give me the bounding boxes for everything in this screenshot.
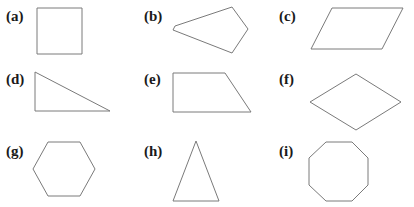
shapes-canvas: [0, 0, 414, 207]
isosceles-triangle-shape: [173, 141, 219, 201]
rhombus-shape: [310, 74, 401, 130]
hexagon-shape: [33, 142, 95, 196]
right-triangle-shape: [35, 72, 110, 111]
trapezoid-shape: [173, 73, 251, 112]
square-shape: [37, 8, 82, 54]
octagon-shape: [309, 142, 368, 201]
pentagon-shape: [173, 7, 248, 53]
parallelogram-shape: [311, 8, 403, 49]
